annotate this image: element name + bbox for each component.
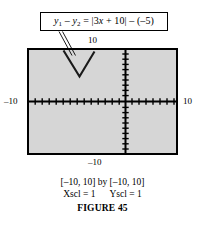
- x-axis-ticks: [35, 98, 174, 105]
- graph-plot-area: [29, 50, 176, 153]
- label-y-minimum: –10: [88, 158, 102, 167]
- formula-callout-box: y1 – y2 = |3x + 10| – (–5): [40, 12, 168, 31]
- caption-scale-row: Xscl = 1 Yscl = 1: [0, 188, 205, 200]
- caption-window-range: [–10, 10] by [–10, 10]: [0, 176, 205, 188]
- caption-figure-number: FIGURE 45: [0, 202, 205, 215]
- graphing-calculator-screen: [27, 48, 178, 155]
- figure-caption: [–10, 10] by [–10, 10] Xscl = 1 Yscl = 1…: [0, 176, 205, 215]
- caption-yscl: Yscl = 1: [110, 188, 142, 200]
- label-x-maximum: 10: [183, 97, 192, 106]
- figure-45-container: y1 – y2 = |3x + 10| – (–5): [0, 0, 205, 225]
- caption-xscl: Xscl = 1: [63, 188, 95, 200]
- label-y-maximum: 10: [88, 36, 97, 45]
- formula-y1-subscript: 1: [59, 20, 63, 28]
- formula-expression: y1 – y2 = |3x + 10| – (–5): [54, 16, 154, 28]
- label-x-minimum: –10: [4, 97, 18, 106]
- formula-y2-subscript: 2: [77, 20, 81, 28]
- formula-variable-x: x: [99, 15, 104, 26]
